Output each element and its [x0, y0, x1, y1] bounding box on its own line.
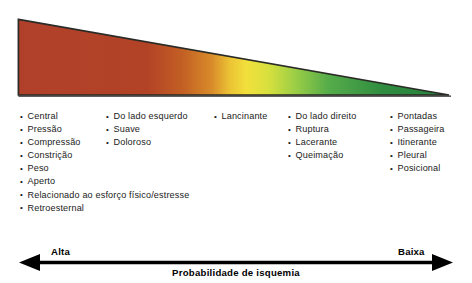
list-item: Passageira: [390, 123, 445, 136]
column-3: Lancinante: [214, 110, 268, 123]
column-4: Do lado direito Ruptura Lacerante Queima…: [288, 110, 356, 162]
ischemia-probability-wedge: [17, 18, 451, 98]
axis-title: Probabilidade de isquemia: [0, 267, 472, 278]
pain-descriptor-columns: Central Pressão Compressão Constrição Pe…: [0, 110, 472, 230]
list-item: Lancinante: [214, 110, 268, 123]
list-item: Do lado direito: [288, 110, 356, 123]
column-2: Do lado esquerdo Suave Doloroso: [106, 110, 188, 149]
list-item: Pontadas: [390, 110, 445, 123]
list-item: Do lado esquerdo: [106, 110, 188, 123]
list-item: Suave: [106, 123, 188, 136]
list-item: Constrição: [20, 149, 189, 162]
list-item: Itinerante: [390, 136, 445, 149]
list-item: Pleural: [390, 149, 445, 162]
list-item: Relacionado ao esforço físico/estresse: [20, 189, 189, 202]
list-item: Peso: [20, 162, 189, 175]
list-item: Ruptura: [288, 123, 356, 136]
list-item: Retroesternal: [20, 202, 189, 215]
list-item: Aperto: [20, 175, 189, 188]
axis-label-low: Baixa: [398, 246, 425, 257]
list-item: Queimação: [288, 149, 356, 162]
column-5-atypical-descriptors: Pontadas Passageira Itinerante Pleural P…: [390, 110, 445, 175]
wedge-triangle: [18, 19, 449, 95]
axis-label-high: Alta: [51, 246, 70, 257]
wedge-graphic: [17, 18, 451, 98]
list-item: Doloroso: [106, 136, 188, 149]
list-item: Lacerante: [288, 136, 356, 149]
list-item: Posicional: [390, 162, 445, 175]
